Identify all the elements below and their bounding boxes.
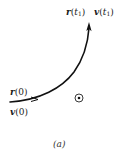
rt1-close: ) [82, 7, 86, 17]
label-v0: v(0) [10, 108, 28, 117]
label-v-t1: v(t1) [94, 8, 114, 17]
vt1-close: ) [110, 7, 114, 17]
trajectory-diagram [0, 0, 120, 152]
label-r0: r(0) [10, 88, 28, 97]
figure-caption: (a) [53, 139, 65, 149]
label-r-t1: r(t1) [66, 8, 85, 17]
out-of-page-dot-icon [78, 97, 81, 100]
v0-arg: (0) [15, 107, 28, 117]
r0-arg: (0) [15, 87, 28, 97]
